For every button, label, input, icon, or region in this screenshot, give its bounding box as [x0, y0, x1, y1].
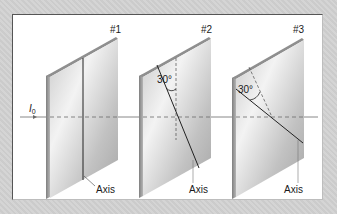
polarizer-2	[139, 37, 211, 198]
polarizer-3	[232, 38, 304, 199]
polarizer-1-axis-label: Axis	[96, 184, 115, 195]
polarizer-2-label: #2	[201, 24, 213, 35]
polarizer-2-angle-label: 30°	[157, 74, 172, 85]
polarizer-1-label: #1	[110, 24, 122, 35]
polarizer-diagram: #1 Axis #2 30° Axis #3 30° Axis I0	[0, 0, 337, 214]
polarizer-1	[46, 37, 118, 199]
polarizer-3-label: #3	[293, 24, 305, 35]
polarizer-3-angle-label: 30°	[238, 84, 253, 95]
polarizer-2-axis-label: Axis	[189, 184, 208, 195]
polarizer-3-axis-label: Axis	[284, 184, 303, 195]
beam-arrow-icon	[33, 115, 37, 119]
incident-intensity-label: I0	[29, 103, 36, 115]
